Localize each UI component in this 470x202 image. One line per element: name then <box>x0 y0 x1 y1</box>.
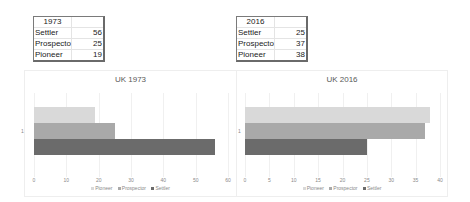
x-tick: 15 <box>315 177 321 183</box>
x-tick: 5 <box>268 177 271 183</box>
table-cell-value[interactable]: 25 <box>275 28 306 38</box>
table-cell-value[interactable]: 25 <box>72 39 103 49</box>
gridline <box>163 93 164 177</box>
table-header-row: 1973 <box>34 17 103 28</box>
data-table-2016: 2016 Settler 25 Prospecto 37 Pioneer 38 <box>236 16 308 62</box>
gridline <box>196 93 197 177</box>
x-tick: 10 <box>291 177 297 183</box>
table-row: Prospecto 25 <box>34 39 103 50</box>
gridline <box>228 93 229 177</box>
table-cell[interactable] <box>72 17 103 27</box>
table-row: Prospecto 37 <box>237 39 306 50</box>
table-cell-value[interactable]: 38 <box>275 50 306 60</box>
chart-title: UK 2016 <box>237 75 447 84</box>
legend-swatch <box>151 187 154 190</box>
chart-divider <box>236 70 237 197</box>
legend-swatch <box>329 187 332 190</box>
legend-swatch <box>363 187 366 190</box>
x-tick: 50 <box>193 177 199 183</box>
bar-prospector[interactable] <box>245 123 425 139</box>
table-cell-label[interactable]: Settler <box>34 28 72 38</box>
x-tick: 40 <box>437 177 443 183</box>
table-header-cell[interactable]: 1973 <box>34 17 72 27</box>
chart-uk-1973[interactable]: UK 1973 1 0 10 20 30 40 50 60 Pioneer Pr… <box>24 70 237 197</box>
table-cell-label[interactable]: Pioneer <box>237 50 275 60</box>
table-cell-label[interactable]: Settler <box>237 28 275 38</box>
x-tick: 35 <box>413 177 419 183</box>
legend-item-settler[interactable]: Settler <box>151 185 169 191</box>
plot-area <box>34 93 228 163</box>
x-tick: 20 <box>96 177 102 183</box>
chart-legend: Pioneer Prospector Settler <box>25 185 236 191</box>
legend-item-prospector[interactable]: Prospector <box>329 185 357 191</box>
x-tick: 0 <box>244 177 247 183</box>
chart-title: UK 1973 <box>25 75 236 84</box>
legend-item-prospector[interactable]: Prospector <box>118 185 146 191</box>
legend-item-pioneer[interactable]: Pioneer <box>91 185 112 191</box>
x-tick: 30 <box>389 177 395 183</box>
table-cell-label[interactable]: Prospecto <box>237 39 275 49</box>
legend-label: Pioneer <box>307 185 324 191</box>
gridline <box>440 93 441 177</box>
category-label: 1 <box>21 128 24 134</box>
legend-label: Prospector <box>122 185 146 191</box>
table-row: Settler 25 <box>237 28 306 39</box>
table-cell[interactable] <box>275 17 306 27</box>
bar-settler[interactable] <box>245 139 367 155</box>
table-cell-label[interactable]: Prospecto <box>34 39 72 49</box>
legend-label: Pioneer <box>95 185 112 191</box>
gridline <box>131 93 132 177</box>
table-cell-value[interactable]: 56 <box>72 28 103 38</box>
bar-pioneer[interactable] <box>34 107 95 123</box>
legend-label: Settler <box>367 185 381 191</box>
category-label: 1 <box>238 128 241 134</box>
data-table-1973: 1973 Settler 56 Prospecto 25 Pioneer 19 <box>33 16 105 62</box>
bar-settler[interactable] <box>34 139 215 155</box>
bar-prospector[interactable] <box>34 123 115 139</box>
x-tick: 25 <box>364 177 370 183</box>
x-tick: 20 <box>340 177 346 183</box>
plot-area <box>245 93 440 163</box>
table-row: Settler 56 <box>34 28 103 39</box>
chart-uk-2016[interactable]: UK 2016 1 0 5 10 15 20 25 30 35 40 Pione… <box>237 70 448 197</box>
legend-label: Prospector <box>333 185 357 191</box>
table-cell-label[interactable]: Pioneer <box>34 50 72 60</box>
table-header-cell[interactable]: 2016 <box>237 17 275 27</box>
legend-swatch <box>91 187 94 190</box>
chart-legend: Pioneer Prospector Settler <box>237 185 447 191</box>
x-tick: 30 <box>128 177 134 183</box>
x-tick: 60 <box>225 177 231 183</box>
legend-item-pioneer[interactable]: Pioneer <box>303 185 324 191</box>
table-cell-value[interactable]: 37 <box>275 39 306 49</box>
table-header-row: 2016 <box>237 17 306 28</box>
table-row: Pioneer 38 <box>237 50 306 60</box>
table-row: Pioneer 19 <box>34 50 103 60</box>
legend-item-settler[interactable]: Settler <box>363 185 381 191</box>
table-cell-value[interactable]: 19 <box>72 50 103 60</box>
legend-swatch <box>118 187 121 190</box>
bar-pioneer[interactable] <box>245 107 430 123</box>
legend-label: Settler <box>155 185 169 191</box>
x-tick: 40 <box>161 177 167 183</box>
legend-swatch <box>303 187 306 190</box>
x-tick: 0 <box>33 177 36 183</box>
x-tick: 10 <box>64 177 70 183</box>
